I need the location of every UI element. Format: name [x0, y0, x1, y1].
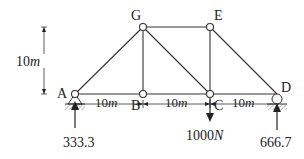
span-label-BC: 10m — [165, 95, 187, 110]
label-D: D — [281, 80, 291, 95]
load-label: 1000N — [186, 128, 224, 143]
load-arrow-C — [206, 98, 214, 122]
label-E: E — [214, 8, 223, 23]
label-A: A — [57, 86, 68, 101]
joint-C — [207, 91, 214, 98]
reaction-label-A: 333.3 — [63, 135, 95, 150]
joint-E — [207, 24, 214, 31]
span-label-CD: 10m — [232, 95, 254, 110]
span-label-AB: 10m — [95, 95, 117, 110]
member-GC — [143, 27, 210, 94]
member-ED — [210, 27, 277, 94]
joint-G — [140, 24, 147, 31]
label-G: G — [131, 8, 141, 23]
joint-B — [140, 91, 147, 98]
reaction-label-D: 666.7 — [260, 135, 292, 150]
height-label: 10m — [16, 54, 40, 69]
truss-diagram: G E A B C D 10m 10m 10m 10m 1000N 333.3 — [0, 0, 304, 159]
member-AG — [75, 27, 143, 94]
truss-members — [75, 27, 277, 94]
joint-A — [72, 91, 79, 98]
label-C: C — [214, 98, 223, 113]
